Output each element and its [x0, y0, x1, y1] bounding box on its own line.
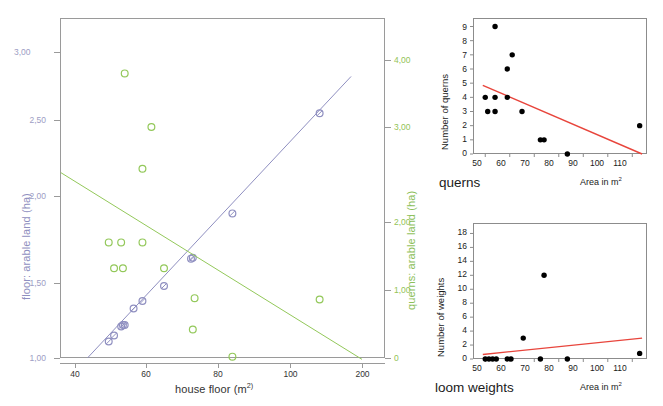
loom-weights-ytick-6: 12: [439, 269, 467, 279]
main-ytick-right-mark-4: [385, 60, 391, 61]
querns-ytick-3: 3: [443, 106, 467, 116]
main-scatter-chart: floor: arable land (ha) querns: arable l…: [0, 0, 420, 406]
loom-weights-xtick-4: 90: [561, 363, 585, 373]
querns-xtick-1: 60: [489, 158, 513, 168]
querns-ytick-8: 8: [443, 36, 467, 46]
main-ytick-left-3: 2,50: [14, 115, 46, 125]
main-x-axis-label-text: house floor (m: [175, 383, 247, 395]
loom-weights-ytick-2: 4: [439, 325, 467, 335]
main-x-axis-line: [60, 363, 385, 364]
loom-weights-ytick-0: 0: [439, 353, 467, 363]
main-ytick-left-0: 1,00: [14, 353, 46, 363]
querns-ytick-1: 1: [443, 134, 467, 144]
main-xtick-mark-3: [290, 363, 291, 368]
main-ytick-left-1: 1,50: [14, 278, 46, 288]
querns-x-axis-label-sup: 2: [619, 176, 622, 182]
main-xtick-mark-2: [218, 363, 219, 368]
loom-weights-xtick-3: 80: [537, 363, 561, 373]
querns-x-axis-label-text: Area in m: [580, 177, 619, 187]
main-x-axis-label: house floor (m2): [175, 381, 253, 395]
querns-ytick-0: 0: [443, 148, 467, 158]
main-ytick-right-3: 3,00: [394, 122, 411, 132]
loom-weights-x-axis-label-text: Area in m: [580, 382, 619, 392]
loom-weights-ytick-4: 8: [439, 297, 467, 307]
main-ytick-left-2: 2,00: [14, 191, 46, 201]
main-xtick-mark-0: [75, 363, 76, 368]
main-xtick-4: 200: [346, 369, 379, 379]
querns-ytick-9: 9: [443, 22, 467, 32]
querns-xtick-4: 90: [561, 158, 585, 168]
querns-ytick-4: 4: [443, 92, 467, 102]
querns-x-axis-label: Area in m2: [580, 176, 622, 187]
main-ytick-right-mark-2: [385, 222, 391, 223]
main-ytick-right-0: 0: [394, 353, 399, 363]
main-xtick-mark-1: [146, 363, 147, 368]
loom-weights-plot-frame: [473, 223, 647, 359]
main-xtick-mark-4: [362, 363, 363, 368]
querns-ytick-5: 5: [443, 78, 467, 88]
main-ytick-right-4: 4,00: [394, 55, 411, 65]
main-plot-frame: [60, 18, 385, 358]
main-ytick-left-mark-3: [54, 120, 60, 121]
main-ytick-left-mark-1: [54, 283, 60, 284]
querns-xtick-3: 80: [537, 158, 561, 168]
loom-weights-ytick-3: 6: [439, 311, 467, 321]
loom-weights-ytick-7: 14: [439, 255, 467, 265]
loom-weights-xtick-0: 50: [465, 363, 489, 373]
querns-xtick-6: 110: [607, 158, 633, 168]
querns-scatter-chart: Number of querns Area in m2 querns 0 1 2…: [425, 0, 663, 200]
main-xtick-0: 40: [60, 369, 90, 379]
loom-weights-ytick-8: 16: [439, 241, 467, 251]
main-ytick-left-mark-0: [54, 358, 60, 359]
loom-weights-x-axis-label-sup: 2: [619, 381, 622, 387]
main-ytick-right-mark-1: [385, 290, 391, 291]
querns-xtick-0: 50: [465, 158, 489, 168]
querns-plot-frame: [473, 18, 647, 154]
main-ytick-right-mark-3: [385, 127, 391, 128]
loom-weights-ytick-5: 10: [439, 283, 467, 293]
loom-weights-xtick-6: 110: [607, 363, 633, 373]
loom-weights-ytick-1: 2: [439, 339, 467, 349]
loom-weights-scatter-chart: Number of weights Area in m2 loom weight…: [425, 205, 663, 406]
main-ytick-right-mark-0: [385, 358, 391, 359]
loom-weights-x-axis-label: Area in m2: [580, 381, 622, 392]
querns-ytick-2: 2: [443, 120, 467, 130]
querns-xtick-2: 70: [513, 158, 537, 168]
loom-weights-xtick-1: 60: [489, 363, 513, 373]
main-x-axis-label-sup: 2): [247, 381, 254, 390]
querns-ytick-6: 6: [443, 64, 467, 74]
loom-weights-xtick-2: 70: [513, 363, 537, 373]
main-ytick-right-1: 1,00: [394, 285, 411, 295]
main-ytick-left-mark-4: [54, 52, 60, 53]
loom-weights-chart-title: loom weights: [435, 380, 514, 395]
main-xtick-3: 100: [274, 369, 307, 379]
main-ytick-right-2: 2,00: [394, 217, 411, 227]
loom-weights-ytick-9: 18: [439, 227, 467, 237]
main-xtick-1: 60: [131, 369, 161, 379]
querns-chart-title: querns: [439, 175, 480, 190]
main-ytick-left-4: 3,00: [14, 47, 31, 57]
querns-ytick-7: 7: [443, 50, 467, 60]
main-ytick-left-mark-2: [54, 196, 60, 197]
main-xtick-2: 80: [203, 369, 233, 379]
